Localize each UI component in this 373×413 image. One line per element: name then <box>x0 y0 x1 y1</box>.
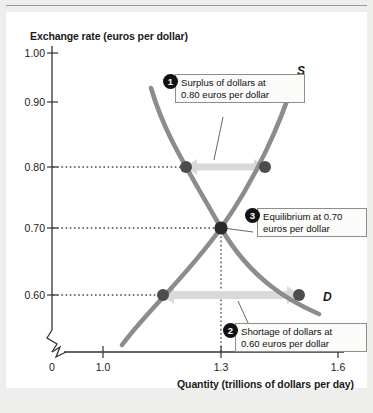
marker-supply-080 <box>259 161 271 173</box>
callout-shortage: Shortage of dollars at 0.60 euros per do… <box>235 323 367 352</box>
y-tick-label-090: 0.90 <box>11 96 45 108</box>
x-tick-label-0: 0 <box>37 361 67 373</box>
callout-surplus: Surplus of dollars at 0.80 euros per dol… <box>175 74 305 103</box>
callout-equilibrium-line2: euros per dollar <box>263 223 361 235</box>
callout-equilibrium: Equilibrium at 0.70 euros per dollar <box>257 208 367 237</box>
callout-shortage-line1: Shortage of dollars at <box>241 326 361 338</box>
demand-curve-label: D <box>323 290 332 304</box>
x-tick-label-13: 1.3 <box>206 361 236 373</box>
marker-supply-060 <box>157 289 169 301</box>
callout-badge-2: 2 <box>223 323 238 338</box>
y-tick-label-080: 0.80 <box>11 161 45 173</box>
callout-surplus-line2: 0.80 euros per dollar <box>181 89 299 101</box>
callout-badge-3: 3 <box>245 208 260 223</box>
y-tick-label-100: 1.00 <box>11 47 45 59</box>
x-tick-label-16: 1.6 <box>323 361 353 373</box>
marker-demand-060 <box>293 289 305 301</box>
y-tick-label-060: 0.60 <box>11 289 45 301</box>
callout-shortage-line2: 0.60 euros per dollar <box>241 338 361 350</box>
x-tick-label-10: 1.0 <box>88 361 118 373</box>
marker-equilibrium <box>214 221 227 234</box>
callout-equilibrium-line1: Equilibrium at 0.70 <box>263 211 361 223</box>
y-axis-break-icon <box>47 330 57 352</box>
callout1-leader <box>214 117 223 160</box>
chart-panel: Exchange rate (euros per dollar) <box>6 12 367 388</box>
callout-surplus-line1: Surplus of dollars at <box>181 77 299 89</box>
x-axis-title: Quantity (trillions of dollars per day) <box>177 378 354 390</box>
y-tick-label-070: 0.70 <box>11 222 45 234</box>
shortage-gap-arrow <box>162 286 299 304</box>
top-divider <box>6 5 367 6</box>
marker-demand-080 <box>180 161 192 173</box>
figure-container: Exchange rate (euros per dollar) <box>0 0 373 413</box>
callout2-leader <box>238 301 249 325</box>
callout-badge-1: 1 <box>163 74 178 89</box>
